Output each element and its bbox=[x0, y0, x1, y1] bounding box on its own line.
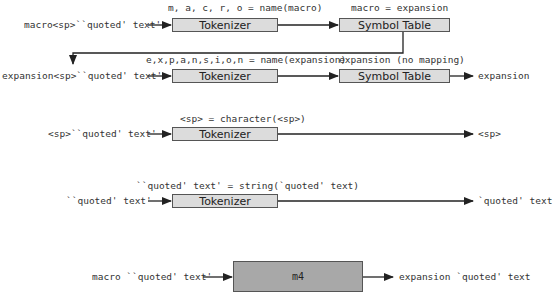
row1-symbol-table-box: Symbol Table bbox=[339, 18, 450, 32]
row1-tokenizer-annotation: m, a, c, r, o = name(macro) bbox=[168, 2, 322, 14]
tokenizer-label: Tokenizer bbox=[199, 19, 250, 32]
summary-output-text: expansion `quoted' text bbox=[399, 271, 531, 283]
row3-tokenizer-box: Tokenizer bbox=[172, 127, 278, 141]
row4-input-text: ``quoted' text' bbox=[66, 195, 152, 207]
row2-tokenizer-box: Tokenizer bbox=[172, 69, 278, 83]
row1-input-text: macro<sp>``quoted' text' bbox=[24, 19, 161, 31]
m4-processor-box: m4 bbox=[233, 261, 363, 292]
symbol-table-label: Symbol Table bbox=[358, 70, 431, 83]
tokenizer-label: Tokenizer bbox=[199, 70, 250, 83]
row2-input-text: expansion<sp>``quoted' text' bbox=[2, 70, 162, 82]
m4-label: m4 bbox=[292, 271, 304, 282]
row3-output-text: <sp> bbox=[478, 128, 501, 140]
tokenizer-label: Tokenizer bbox=[199, 195, 250, 208]
summary-input-text: macro ``quoted' text' bbox=[92, 271, 212, 283]
row1-tokenizer-box: Tokenizer bbox=[172, 18, 278, 32]
row2-symbol-annotation: expansion (no mapping) bbox=[339, 54, 465, 66]
row3-input-text: <sp>``quoted' text' bbox=[48, 128, 157, 140]
row2-output-text: expansion bbox=[478, 70, 529, 82]
row4-tokenizer-annotation: ``quoted' text' = string(`quoted' text) bbox=[136, 180, 359, 192]
row4-output-text: `quoted' text bbox=[478, 195, 552, 207]
row2-symbol-table-box: Symbol Table bbox=[339, 69, 450, 83]
tokenizer-label: Tokenizer bbox=[199, 128, 250, 141]
row2-tokenizer-annotation: e,x,p,a,n,s,i,o,n = name(expansion) bbox=[146, 54, 346, 66]
symbol-table-label: Symbol Table bbox=[358, 19, 431, 32]
row4-tokenizer-box: Tokenizer bbox=[172, 194, 278, 208]
row1-symbol-annotation: macro = expansion bbox=[351, 2, 448, 14]
row3-tokenizer-annotation: <sp> = character(<sp>) bbox=[180, 113, 306, 125]
